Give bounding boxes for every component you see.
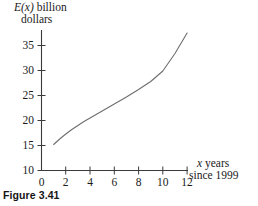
x-tick-label-6: 6 [105, 177, 123, 189]
data-curve-exports [54, 33, 187, 145]
x-tick-label-8: 8 [130, 177, 148, 189]
x-tick-label-4: 4 [81, 177, 99, 189]
y-tick-label-20: 20 [12, 115, 34, 127]
x-axis-title-unit: years [202, 157, 229, 169]
y-tick-label-15: 15 [12, 140, 34, 152]
y-tick-label-30: 30 [12, 65, 34, 77]
y-tick-label-10: 10 [12, 165, 34, 177]
figure-caption: Figure 3.41 [3, 189, 60, 201]
y-tick-label-35: 35 [12, 40, 34, 52]
x-axis-title-line2: since 1999 [189, 169, 239, 181]
x-tick-label-0: 0 [33, 177, 51, 189]
x-tick-label-10: 10 [154, 177, 172, 189]
x-tick-label-2: 2 [57, 177, 75, 189]
y-tick-label-25: 25 [12, 90, 34, 102]
x-axis-title: x years [197, 157, 229, 169]
figure-3-41: E(x) billion dollars 10 15 [0, 0, 258, 206]
